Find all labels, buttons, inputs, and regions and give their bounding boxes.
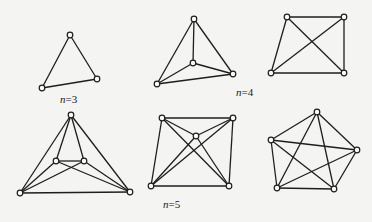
graph-edge [277, 150, 357, 188]
graph-n3-triangle: n=3 [39, 32, 100, 105]
graph-edge [84, 161, 130, 192]
graph-vertex [230, 71, 236, 77]
graph-vertex [191, 16, 197, 22]
graph-n4-square-k4 [268, 14, 347, 76]
graph-n5-square-k5: n=5 [148, 115, 236, 210]
graph-vertex [314, 109, 320, 115]
graph-vertex [226, 183, 232, 189]
graph-edge [162, 118, 196, 136]
graph-vertex [341, 14, 347, 20]
graph-edge [71, 115, 130, 192]
graph-vertex [268, 70, 274, 76]
graph-vertex [230, 115, 236, 121]
graph-edge [42, 79, 97, 88]
graph-label: n=4 [236, 86, 254, 98]
graph-edge [277, 188, 334, 189]
graph-figure: n=3 n=4 n=5 [0, 0, 372, 222]
graph-edge [151, 118, 233, 186]
graph-edge [20, 115, 71, 193]
graph-n5-pentagon-k5 [268, 109, 360, 192]
graph-edge [42, 35, 70, 88]
graph-edge [271, 17, 287, 73]
graph-vertex [154, 81, 160, 87]
graph-edge [271, 140, 277, 188]
graph-label: n=3 [60, 93, 78, 105]
graph-vertex [53, 158, 59, 164]
graph-vertex [67, 32, 73, 38]
graph-vertex [331, 186, 337, 192]
graph-edge [271, 17, 344, 73]
graph-edge [70, 35, 97, 79]
graph-vertex [284, 14, 290, 20]
graph-edge [271, 140, 357, 150]
graph-edge [20, 192, 130, 193]
graph-vertex [274, 185, 280, 191]
graph-vertex [68, 112, 74, 118]
graph-edge [71, 115, 84, 161]
graph-edge [162, 118, 229, 186]
graph-edge [193, 19, 194, 63]
graph-vertex [159, 115, 165, 121]
graph-vertex [81, 158, 87, 164]
graph-vertex [341, 70, 347, 76]
graph-vertex [190, 60, 196, 66]
graph-vertex [193, 133, 199, 139]
graph-edge [287, 17, 344, 73]
graph-edge [317, 112, 357, 150]
graph-vertex [354, 147, 360, 153]
graph-vertex [94, 76, 100, 82]
graph-vertex [268, 137, 274, 143]
graph-edge [229, 118, 233, 186]
graph-n4-tetrahedron: n=4 [154, 16, 254, 98]
graph-edge [157, 19, 194, 84]
graph-vertex [127, 189, 133, 195]
graph-edge [196, 136, 229, 186]
graph-edge [194, 19, 233, 74]
graph-vertex [17, 190, 23, 196]
graph-edge [157, 74, 233, 84]
graph-edge [56, 115, 71, 161]
graph-edge [20, 161, 84, 193]
graph-vertex [39, 85, 45, 91]
graph-label: n=5 [163, 198, 181, 210]
graph-vertex [148, 183, 154, 189]
graph-n5-triangle-k5 [17, 112, 133, 196]
